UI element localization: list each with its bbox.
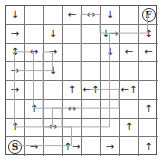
down-arrow-icon: ↓	[106, 10, 114, 20]
grid-cell[interactable]: →	[44, 44, 63, 63]
multi-arrow-icon: ↓→	[102, 29, 119, 39]
grid-cell[interactable]: S	[6, 137, 25, 156]
grid-cell[interactable]: →	[25, 137, 44, 156]
grid-cell[interactable]	[101, 119, 120, 138]
right-arrow-icon: →	[106, 142, 114, 152]
grid-cell[interactable]	[120, 137, 139, 156]
grid-cell[interactable]	[63, 62, 82, 81]
grid-cell[interactable]	[25, 6, 44, 25]
right-arrow-icon: →	[11, 66, 19, 76]
grid-cell[interactable]: ↑	[25, 100, 44, 119]
grid-cell[interactable]	[120, 6, 139, 25]
grid-cell[interactable]	[63, 119, 82, 138]
down-arrow-icon: ↓	[11, 10, 19, 20]
grid-cell[interactable]: →	[6, 81, 25, 100]
grid-cell[interactable]	[82, 100, 101, 119]
grid-cell[interactable]: ↑	[6, 119, 25, 138]
grid-cell[interactable]: ↕	[139, 25, 158, 44]
grid-cell[interactable]	[44, 81, 63, 100]
up-arrow-icon: ↑	[11, 122, 19, 132]
grid-cell[interactable]: ↓	[44, 25, 63, 44]
grid-cell[interactable]: ↑→	[63, 137, 82, 156]
grid-cell[interactable]: ←	[139, 44, 158, 63]
grid-cell[interactable]: F	[139, 6, 158, 25]
up-down-arrow-icon: ↕	[11, 47, 19, 57]
grid-cell[interactable]	[44, 6, 63, 25]
grid-cell[interactable]	[82, 137, 101, 156]
grid-cell[interactable]: ↔	[63, 100, 82, 119]
finish-marker: F	[142, 8, 156, 22]
grid-cell[interactable]: ←↑	[120, 81, 139, 100]
grid-cell[interactable]	[82, 44, 101, 63]
grid-cell[interactable]: →	[6, 25, 25, 44]
grid-cell[interactable]	[25, 62, 44, 81]
grid-cell[interactable]	[139, 81, 158, 100]
grid-cell[interactable]: ↑	[139, 137, 158, 156]
grid-cell[interactable]	[44, 137, 63, 156]
up-down-arrow-icon: ↕	[144, 29, 152, 39]
right-arrow-icon: →	[49, 47, 57, 57]
arrow-grid: ↓←↔↓F→↓↓→↕↕↔→↓←←→↓→↑←↑←↑↑↔↑↑↔↑S→↑→→↑	[5, 5, 157, 155]
grid-cell[interactable]	[25, 119, 44, 138]
grid-cell[interactable]: →	[6, 62, 25, 81]
down-arrow-icon: ↓	[106, 47, 114, 57]
up-arrow-icon: ↑	[144, 142, 152, 152]
grid-cell[interactable]	[120, 25, 139, 44]
grid-cell[interactable]	[120, 100, 139, 119]
grid-cell[interactable]	[120, 62, 139, 81]
grid-cell[interactable]: →	[101, 137, 120, 156]
grid-cell[interactable]: ↓→	[101, 25, 120, 44]
grid-cell[interactable]	[82, 62, 101, 81]
left-right-arrow-icon: ↔	[30, 47, 38, 57]
grid-cell[interactable]	[6, 100, 25, 119]
left-right-arrow-icon: ↔	[87, 10, 95, 20]
multi-arrow-icon: ←↑	[83, 85, 100, 95]
up-arrow-icon: ↑	[144, 104, 152, 114]
grid-cell[interactable]	[25, 25, 44, 44]
right-arrow-icon: →	[11, 85, 19, 95]
grid-cell[interactable]	[82, 119, 101, 138]
left-arrow-icon: ←	[125, 47, 133, 57]
grid-cell[interactable]: ↑	[120, 119, 139, 138]
grid-cell[interactable]: ↑	[63, 81, 82, 100]
left-right-arrow-icon: ↔	[68, 104, 76, 114]
grid-cell[interactable]	[63, 25, 82, 44]
multi-arrow-icon: ←↑	[121, 85, 138, 95]
right-arrow-icon: →	[30, 142, 38, 152]
right-arrow-icon: →	[11, 29, 19, 39]
maze-board: ↓←↔↓F→↓↓→↕↕↔→↓←←→↓→↑←↑←↑↑↔↑↑↔↑S→↑→→↑	[5, 5, 157, 155]
down-arrow-icon: ↓	[49, 66, 57, 76]
up-arrow-icon: ↑	[125, 122, 133, 132]
grid-cell[interactable]: ↓	[101, 44, 120, 63]
multi-arrow-icon: ↑→	[64, 142, 81, 152]
down-arrow-icon: ↓	[49, 29, 57, 39]
left-arrow-icon: ←	[68, 10, 76, 20]
grid-cell[interactable]: ←	[120, 44, 139, 63]
grid-cell[interactable]: ←↑	[82, 81, 101, 100]
grid-cell[interactable]: ↓	[101, 6, 120, 25]
left-arrow-icon: ←	[144, 47, 152, 57]
grid-cell[interactable]: ↓	[6, 6, 25, 25]
grid-cell[interactable]	[139, 62, 158, 81]
up-arrow-icon: ↑	[30, 104, 38, 114]
grid-cell[interactable]: ↔	[25, 44, 44, 63]
grid-cell[interactable]	[139, 119, 158, 138]
grid-cell[interactable]	[44, 100, 63, 119]
grid-cell[interactable]	[101, 100, 120, 119]
up-arrow-icon: ↑	[68, 85, 76, 95]
grid-cell[interactable]	[82, 25, 101, 44]
grid-cell[interactable]	[101, 81, 120, 100]
grid-cell[interactable]	[25, 81, 44, 100]
grid-cell[interactable]: ↓	[44, 62, 63, 81]
grid-cell[interactable]	[63, 44, 82, 63]
grid-cell[interactable]	[101, 62, 120, 81]
grid-cell[interactable]: ↔	[44, 119, 63, 138]
grid-cell[interactable]: ↑	[139, 100, 158, 119]
grid-cell[interactable]: ↔	[82, 6, 101, 25]
left-right-arrow-icon: ↔	[49, 122, 57, 132]
start-marker: S	[8, 140, 22, 154]
grid-cell[interactable]: ↕	[6, 44, 25, 63]
grid-cell[interactable]: ←	[63, 6, 82, 25]
